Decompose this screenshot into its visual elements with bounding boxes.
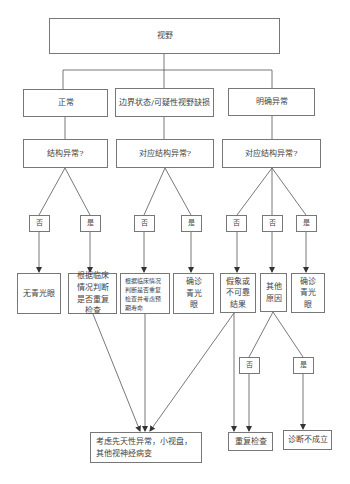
outcome-label: 确诊青光眼: [183, 276, 204, 311]
answer-label: 是: [188, 218, 195, 228]
outcome-label: 确诊青光眼: [297, 276, 319, 311]
sub-answer-yes: 是: [293, 357, 314, 374]
answer-label: 是: [303, 218, 310, 228]
outcome-label: 其他原因: [265, 281, 282, 304]
final-repeat-exam: 重复检查: [228, 432, 273, 451]
answer-label: 是: [300, 360, 307, 370]
connector: [249, 312, 273, 357]
connector: [39, 168, 65, 215]
sub-answer-no: 否: [239, 357, 260, 374]
category-label: 明确异常: [256, 96, 288, 108]
outcome-confirmed-glaucoma: 确诊青光眼: [173, 273, 214, 314]
outcome-no-glaucoma: 无青光眼: [17, 273, 61, 314]
arrow: [150, 313, 234, 431]
final-label: 重复检查: [235, 436, 267, 448]
connector: [272, 168, 306, 215]
question-corresponding-structural: 对应结构异常?: [222, 139, 321, 168]
category-normal: 正常: [23, 89, 108, 117]
answer-label: 否: [36, 218, 43, 228]
answer-yes: 是: [181, 215, 202, 232]
root-node-visual-field: 视野: [49, 18, 280, 54]
answer-label: 否: [246, 360, 253, 370]
arrow: [93, 314, 140, 431]
answer-label: 是: [87, 218, 94, 228]
question-label: 对应结构异常?: [139, 148, 191, 160]
outcome-label: 无青光眼: [23, 288, 55, 300]
outcome-label: 根据临床情况判断是否重复检查: [74, 270, 111, 316]
answer-no: 否: [226, 215, 247, 232]
answer-no: 否: [262, 215, 283, 232]
answer-yes: 是: [296, 215, 317, 232]
outcome-label: 根据临床情况判断是否重复检查并考虑预期寿命: [125, 276, 165, 312]
answer-no: 否: [134, 215, 155, 232]
connector: [237, 168, 272, 215]
outcome-label: 假象或不可靠结果: [225, 276, 251, 311]
final-consider-congenital: 考虑先天性异常，小视盘，其他视神经病变: [90, 432, 202, 463]
answer-label: 否: [141, 218, 148, 228]
final-diagnosis-not-established: 诊断不成立: [283, 430, 332, 450]
connector: [144, 168, 165, 215]
category-label: 边界状态/可疑性视野缺损: [119, 97, 210, 109]
question-structural-abnormal: 结构异常?: [23, 139, 108, 168]
category-label: 正常: [58, 97, 74, 109]
question-label: 结构异常?: [47, 148, 83, 160]
final-label: 诊断不成立: [288, 434, 328, 446]
category-definite-abnormal: 明确异常: [228, 88, 315, 116]
answer-yes: 是: [80, 215, 101, 232]
question-corresponding-structural: 对应结构异常?: [116, 139, 214, 168]
connector: [165, 168, 191, 215]
root-label: 视野: [157, 30, 173, 42]
category-borderline: 边界状态/可疑性视野缺损: [115, 88, 214, 117]
connector: [65, 168, 90, 215]
outcome-confirmed-glaucoma: 确诊青光眼: [291, 273, 325, 313]
outcome-other-causes: 其他原因: [260, 273, 287, 312]
answer-label: 否: [233, 218, 240, 228]
answer-no: 否: [29, 215, 50, 232]
outcome-artifact-unreliable: 假象或不可靠结果: [220, 273, 256, 313]
outcome-clinical-judgment-life-expectancy: 根据临床情况判断是否重复检查并考虑预期寿命: [120, 273, 170, 314]
connector-lines: [0, 0, 350, 484]
answer-label: 否: [269, 218, 276, 228]
outcome-clinical-judgment-repeat: 根据临床情况判断是否重复检查: [68, 273, 117, 314]
final-label: 考虑先天性异常，小视盘，其他视神经病变: [96, 436, 196, 459]
question-label: 对应结构异常?: [245, 148, 297, 160]
connector: [273, 312, 303, 357]
